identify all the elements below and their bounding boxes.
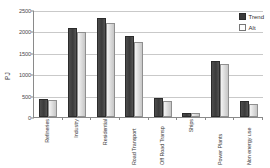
x-axis-label: Power Plants: [217, 119, 223, 165]
bar-group: [149, 11, 178, 117]
y-axis-tick-label: 500: [22, 94, 31, 100]
legend-item-alt: Alt: [239, 24, 264, 31]
bar-trend: [211, 61, 220, 117]
legend-swatch-trend-icon: [239, 13, 246, 20]
x-axis-label: Industry: [73, 119, 79, 138]
bar-group: [34, 11, 63, 117]
x-axis-label: Refineries: [44, 119, 50, 143]
x-axis-label-cell: Non energy use: [234, 119, 263, 167]
plot-area: 05001000150020002500: [33, 11, 263, 118]
legend-item-trend: Trend: [239, 13, 264, 20]
x-axis-label-cell: Power Plants: [206, 119, 235, 167]
y-axis-tick-label: 0: [28, 115, 31, 121]
bar-alt: [220, 64, 229, 117]
bar-trend: [39, 99, 48, 117]
legend-label-trend: Trend: [249, 14, 264, 20]
bar-alt: [134, 42, 143, 117]
x-axis-label: Non energy use: [246, 119, 252, 165]
bar-trend: [68, 28, 77, 117]
bar-group: [206, 11, 235, 117]
bar-group: [177, 11, 206, 117]
bar-series-container: [34, 11, 263, 117]
bar-group: [91, 11, 120, 117]
x-axis-label: Ships: [188, 119, 194, 132]
x-axis-label-cell: Road Transport: [119, 119, 148, 167]
y-axis-label: PJ: [0, 69, 18, 83]
chart-legend: Trend Alt: [239, 13, 264, 31]
bar-chart: PJ 05001000150020002500 RefineriesIndust…: [0, 0, 270, 168]
x-axis-label: Off Road Transp: [159, 119, 165, 165]
y-axis-tick-label: 2500: [19, 8, 31, 14]
x-axis-label-cell: Residential: [91, 119, 120, 167]
bar-trend: [125, 36, 134, 117]
x-axis-labels: RefineriesIndustryResidentialRoad Transp…: [33, 119, 263, 167]
bar-alt: [48, 100, 57, 117]
x-axis-label-cell: Refineries: [33, 119, 62, 167]
bar-trend: [240, 101, 249, 117]
bar-alt: [191, 113, 200, 117]
x-axis-label-cell: Off Road Transp: [148, 119, 177, 167]
x-axis-label-cell: Industry: [62, 119, 91, 167]
bar-group: [120, 11, 149, 117]
bar-alt: [106, 23, 115, 117]
bar-trend: [97, 18, 106, 117]
x-axis-label: Residential: [102, 119, 108, 145]
bar-alt: [249, 104, 258, 117]
bar-group: [63, 11, 92, 117]
bar-trend: [154, 98, 163, 117]
y-axis-tick-label: 2000: [19, 29, 31, 35]
bar-trend: [182, 113, 191, 117]
x-axis-label: Road Transport: [131, 119, 137, 165]
x-axis-label-cell: Ships: [177, 119, 206, 167]
y-axis-tick-label: 1000: [19, 72, 31, 78]
legend-swatch-alt-icon: [239, 24, 246, 31]
y-axis-tick-label: 1500: [19, 51, 31, 57]
legend-label-alt: Alt: [249, 25, 256, 31]
bar-alt: [77, 32, 86, 117]
bar-alt: [163, 101, 172, 117]
